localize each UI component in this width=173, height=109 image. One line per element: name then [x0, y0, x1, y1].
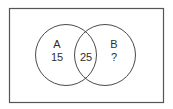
- set-b-only-value: ?: [111, 51, 117, 63]
- venn-diagram: A 15 25 B ?: [0, 0, 173, 109]
- set-b-label: B: [110, 38, 117, 50]
- intersection-value: 25: [80, 51, 92, 63]
- set-a-label: A: [53, 38, 61, 50]
- set-a-only-value: 15: [51, 51, 63, 63]
